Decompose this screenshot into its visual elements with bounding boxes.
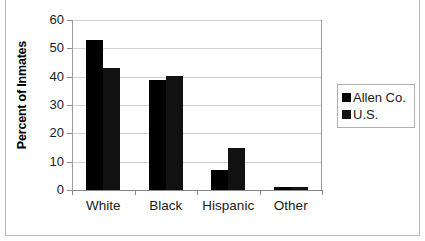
bars-layer bbox=[72, 20, 322, 190]
y-axis-tick-label: 0 bbox=[36, 183, 64, 196]
x-axis-label: White bbox=[72, 198, 135, 213]
x-axis-tick bbox=[135, 190, 136, 195]
legend-item: U.S. bbox=[342, 106, 411, 123]
bar bbox=[149, 80, 166, 191]
y-axis-tick-label-wrap: 60 bbox=[36, 13, 64, 26]
x-axis-tick bbox=[260, 190, 261, 195]
y-axis-tick-label-wrap: 40 bbox=[36, 70, 64, 83]
chart-screenshot: Percent of Inmates 0102030405060 WhiteBl… bbox=[0, 0, 425, 241]
legend: Allen Co. U.S. bbox=[337, 84, 415, 128]
legend-swatch-us bbox=[342, 110, 351, 119]
y-axis-tick-label-wrap: 50 bbox=[36, 41, 64, 54]
clipped-caption-artifact bbox=[6, 236, 306, 241]
y-axis-tick-label: 30 bbox=[36, 98, 64, 111]
bar bbox=[86, 40, 103, 190]
legend-label-allen-co: Allen Co. bbox=[353, 91, 406, 104]
x-axis-tick bbox=[322, 190, 323, 195]
y-axis-tick-label-wrap: 20 bbox=[36, 126, 64, 139]
y-axis-tick-label: 10 bbox=[36, 155, 64, 168]
bar bbox=[103, 68, 120, 190]
legend-item: Allen Co. bbox=[342, 89, 411, 106]
legend-swatch-allen-co bbox=[342, 93, 351, 102]
x-axis-tick bbox=[197, 190, 198, 195]
y-axis-tick-label: 50 bbox=[36, 41, 64, 54]
x-axis-label: Hispanic bbox=[197, 198, 260, 213]
y-axis-tick-label: 60 bbox=[36, 13, 64, 26]
y-axis-tick-label-wrap: 10 bbox=[36, 155, 64, 168]
y-axis-tick-label: 20 bbox=[36, 126, 64, 139]
y-axis-tick-label-wrap: 30 bbox=[36, 98, 64, 111]
legend-label-us: U.S. bbox=[353, 108, 378, 121]
y-axis-tick-label-wrap: 0 bbox=[36, 183, 64, 196]
x-axis-label: Black bbox=[135, 198, 198, 213]
y-axis-tick-label: 40 bbox=[36, 70, 64, 83]
bar bbox=[166, 76, 183, 190]
bar bbox=[228, 148, 245, 190]
bar bbox=[211, 170, 228, 190]
y-axis-title: Percent of Inmates bbox=[15, 32, 29, 158]
x-axis-label: Other bbox=[260, 198, 323, 213]
x-axis-tick bbox=[72, 190, 73, 195]
